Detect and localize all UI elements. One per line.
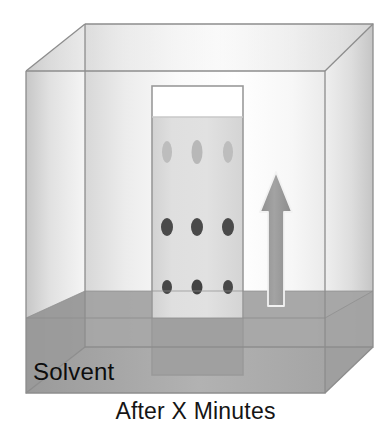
spot — [162, 141, 172, 163]
spot — [222, 218, 234, 236]
spot — [191, 218, 203, 236]
spot — [162, 280, 172, 294]
chamber-top-rim — [26, 24, 373, 71]
spot — [223, 141, 233, 163]
chamber-scene — [0, 0, 391, 429]
spot — [223, 280, 233, 294]
spot — [192, 280, 203, 295]
spot — [161, 218, 173, 236]
plate-dry-section — [152, 86, 243, 117]
spot — [192, 140, 203, 164]
chromatography-figure: Solvent After X Minutes — [0, 0, 391, 429]
